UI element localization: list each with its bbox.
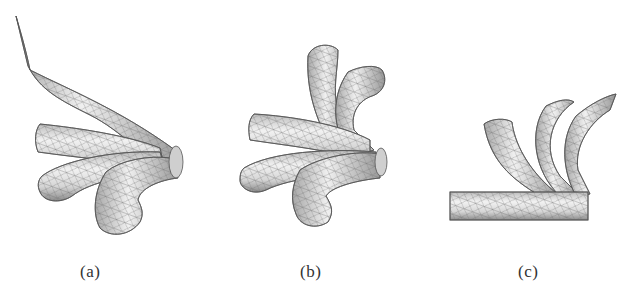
tube-mesh-c-illustration <box>430 0 638 260</box>
panel-c: (c) <box>430 0 638 260</box>
panel-label-a: (a) <box>80 262 100 282</box>
tube-mesh-b-illustration <box>220 0 430 260</box>
panel-b: (b) <box>220 0 430 260</box>
tube-mesh-a-illustration <box>0 0 210 260</box>
panel-a: (a) <box>0 0 210 260</box>
panel-label-c: (c) <box>518 262 538 282</box>
panel-label-b: (b) <box>300 262 321 282</box>
